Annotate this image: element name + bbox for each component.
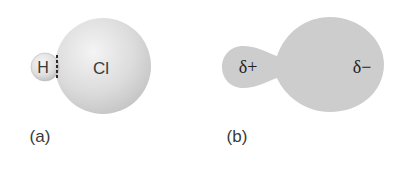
panel-a: H Cl (a)	[30, 18, 151, 146]
chlorine-label: Cl	[93, 59, 109, 78]
panel-b: δ+ δ− (b)	[222, 17, 384, 146]
partial-positive-label: δ+	[239, 57, 258, 77]
hydrogen-label: H	[37, 59, 49, 76]
panel-b-caption: (b)	[227, 127, 248, 146]
hcl-diagram: H Cl (a) δ+ δ− (b)	[0, 0, 399, 181]
panel-a-caption: (a)	[30, 127, 51, 146]
partial-negative-label: δ−	[353, 57, 372, 77]
